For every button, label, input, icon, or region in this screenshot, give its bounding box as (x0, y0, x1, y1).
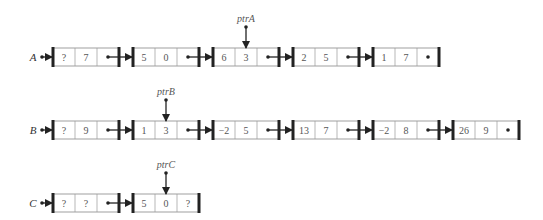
list-node: ?? (52, 193, 133, 213)
list-label: B (30, 124, 37, 136)
pointer-label: ptrA (236, 13, 256, 24)
node-value: 5 (244, 125, 249, 136)
node-value: 13 (299, 125, 309, 136)
node-value: 5 (142, 52, 147, 63)
link-dot (426, 55, 430, 59)
list-label: C (29, 197, 37, 209)
node-value: 5 (142, 198, 147, 209)
node-value: 2 (302, 52, 307, 63)
list-node: −28 (372, 120, 453, 140)
node-value: 26 (459, 125, 469, 136)
list-node: 50?ptrC (132, 159, 201, 213)
list-node: ?9 (52, 120, 133, 140)
node-value: ? (62, 198, 67, 209)
list-node: 137 (292, 120, 373, 140)
node-value: ? (84, 198, 89, 209)
link-dot (506, 128, 510, 132)
list-node: ?7 (52, 47, 133, 67)
node-value: 0 (164, 52, 169, 63)
pointer-label: ptrB (156, 86, 175, 97)
node-value: 3 (164, 125, 169, 136)
node-value: 9 (84, 125, 89, 136)
node-value: 7 (84, 52, 89, 63)
node-value: 7 (404, 52, 409, 63)
list-A: A?75063ptrA2517 (29, 13, 441, 67)
node-value: 1 (142, 125, 147, 136)
node-value: ? (62, 125, 67, 136)
list-node: 63ptrA (212, 13, 293, 67)
list-B: B?913ptrB−25137−28269 (30, 86, 521, 140)
node-value: 1 (382, 52, 387, 63)
node-value: 8 (404, 125, 409, 136)
node-value: −2 (219, 125, 230, 136)
list-label: A (29, 51, 37, 63)
list-node: −25 (212, 120, 293, 140)
list-node: 13ptrB (132, 86, 213, 140)
node-value: −2 (379, 125, 390, 136)
node-value: 6 (222, 52, 227, 63)
node-value: ? (186, 198, 191, 209)
list-node: 269 (452, 120, 521, 140)
list-node: 17 (372, 47, 441, 67)
node-value: 5 (324, 52, 329, 63)
node-value: 7 (324, 125, 329, 136)
node-value: 9 (484, 125, 489, 136)
node-value: 3 (244, 52, 249, 63)
diagram-canvas: A?75063ptrA2517B?913ptrB−25137−28269C??5… (0, 0, 543, 220)
pointer-label: ptrC (156, 159, 176, 170)
node-value: 0 (164, 198, 169, 209)
list-node: 25 (292, 47, 373, 67)
list-C: C??50?ptrC (29, 159, 200, 213)
node-value: ? (62, 52, 67, 63)
list-node: 50 (132, 47, 213, 67)
